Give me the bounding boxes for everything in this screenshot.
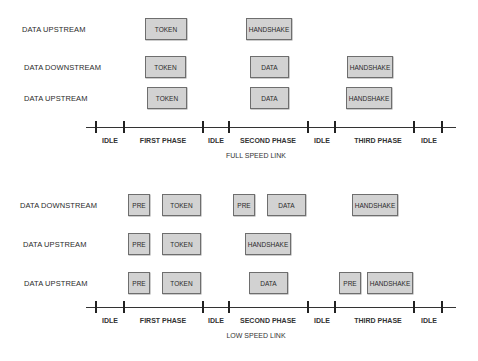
phase-label: IDLE bbox=[421, 317, 437, 324]
packet-data-box: DATA bbox=[267, 194, 306, 216]
timeline-tick bbox=[123, 301, 125, 313]
timeline-tick bbox=[95, 301, 97, 313]
phase-label: SECOND PHASE bbox=[240, 317, 296, 324]
packet-token-box: TOKEN bbox=[162, 194, 201, 216]
packet-handshake-box: HANDSHAKE bbox=[367, 272, 413, 294]
phase-label: SECOND PHASE bbox=[240, 137, 296, 144]
timeline-tick bbox=[441, 301, 443, 313]
row-label: DATA DOWNSTREAM bbox=[24, 63, 101, 72]
packet-token-box: TOKEN bbox=[162, 233, 201, 255]
packet-data-box: DATA bbox=[249, 272, 288, 294]
timeline-tick bbox=[228, 121, 230, 133]
packet-handshake-box: HANDSHAKE bbox=[347, 56, 393, 78]
timeline-tick bbox=[441, 121, 443, 133]
timeline-tick bbox=[202, 121, 204, 133]
phase-label: FIRST PHASE bbox=[140, 317, 186, 324]
packet-handshake-box: HANDSHAKE bbox=[352, 194, 398, 216]
packet-pre-box: PRE bbox=[339, 272, 361, 294]
link-caption: FULL SPEED LINK bbox=[226, 152, 286, 159]
phase-label: IDLE bbox=[314, 137, 330, 144]
packet-token-box: TOKEN bbox=[145, 56, 186, 78]
packet-pre-box: PRE bbox=[128, 272, 150, 294]
timeline-tick bbox=[95, 121, 97, 133]
timeline-tick bbox=[307, 301, 309, 313]
timeline-axis bbox=[86, 127, 456, 128]
row-label: DATA UPSTREAM bbox=[24, 279, 88, 288]
phase-label: THIRD PHASE bbox=[354, 137, 401, 144]
packet-data-box: DATA bbox=[250, 87, 289, 109]
packet-pre-box: PRE bbox=[128, 233, 150, 255]
phase-label: THIRD PHASE bbox=[354, 317, 401, 324]
packet-data-box: DATA bbox=[250, 56, 289, 78]
timeline-tick bbox=[307, 121, 309, 133]
phase-label: FIRST PHASE bbox=[140, 137, 186, 144]
row-label: DATA UPSTREAM bbox=[24, 94, 88, 103]
phase-label: IDLE bbox=[314, 317, 330, 324]
link-caption: LOW SPEED LINK bbox=[226, 332, 285, 339]
packet-token-box: TOKEN bbox=[145, 18, 187, 40]
timeline-axis bbox=[86, 307, 456, 308]
timeline-tick bbox=[334, 301, 336, 313]
timeline-tick bbox=[228, 301, 230, 313]
row-label: DATA DOWNSTREAM bbox=[20, 201, 97, 210]
timeline-tick bbox=[413, 301, 415, 313]
phase-label: IDLE bbox=[102, 317, 118, 324]
phase-label: IDLE bbox=[102, 137, 118, 144]
phase-label: IDLE bbox=[421, 137, 437, 144]
timeline-tick bbox=[202, 301, 204, 313]
phase-label: IDLE bbox=[208, 137, 224, 144]
packet-token-box: TOKEN bbox=[147, 87, 187, 109]
row-label: DATA UPSTREAM bbox=[22, 25, 86, 34]
packet-token-box: TOKEN bbox=[162, 272, 201, 294]
packet-handshake-box: HANDSHAKE bbox=[246, 18, 292, 40]
phase-label: IDLE bbox=[208, 317, 224, 324]
packet-handshake-box: HANDSHAKE bbox=[245, 233, 291, 255]
timeline-tick bbox=[413, 121, 415, 133]
timeline-tick bbox=[123, 121, 125, 133]
packet-pre-box: PRE bbox=[233, 194, 255, 216]
timeline-tick bbox=[334, 121, 336, 133]
packet-handshake-box: HANDSHAKE bbox=[346, 87, 392, 109]
row-label: DATA UPSTREAM bbox=[23, 240, 87, 249]
packet-pre-box: PRE bbox=[128, 194, 150, 216]
